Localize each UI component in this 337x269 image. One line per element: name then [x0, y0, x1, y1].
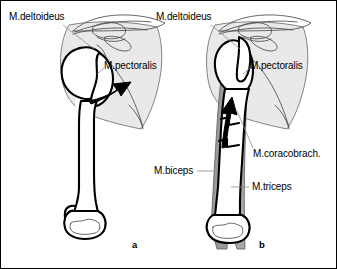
panel-a-graphic [60, 15, 165, 239]
label-m-deltoideus-a: M.deltoideus [9, 11, 65, 22]
label-m-deltoideus-b: M.deltoideus [156, 11, 212, 22]
panel-letter-a: a [132, 239, 137, 250]
figure-canvas: .bone { fill:#ffffff; stroke:#000000; st… [1, 1, 337, 269]
panel-letter-b: b [259, 239, 265, 250]
humerus-greater-tubercle-b [237, 37, 250, 82]
label-m-pectoralis-b: M.pectoralis [250, 60, 303, 71]
label-m-biceps-b: M.biceps [154, 165, 193, 176]
panel-b-graphic [206, 15, 311, 249]
label-m-coracobrachialis-b: M.coracobrach. [253, 148, 321, 159]
anatomical-figure: .bone { fill:#ffffff; stroke:#000000; st… [0, 0, 337, 269]
label-m-triceps-b: M.triceps [252, 181, 292, 192]
label-m-pectoralis-a: M.pectoralis [104, 60, 157, 71]
